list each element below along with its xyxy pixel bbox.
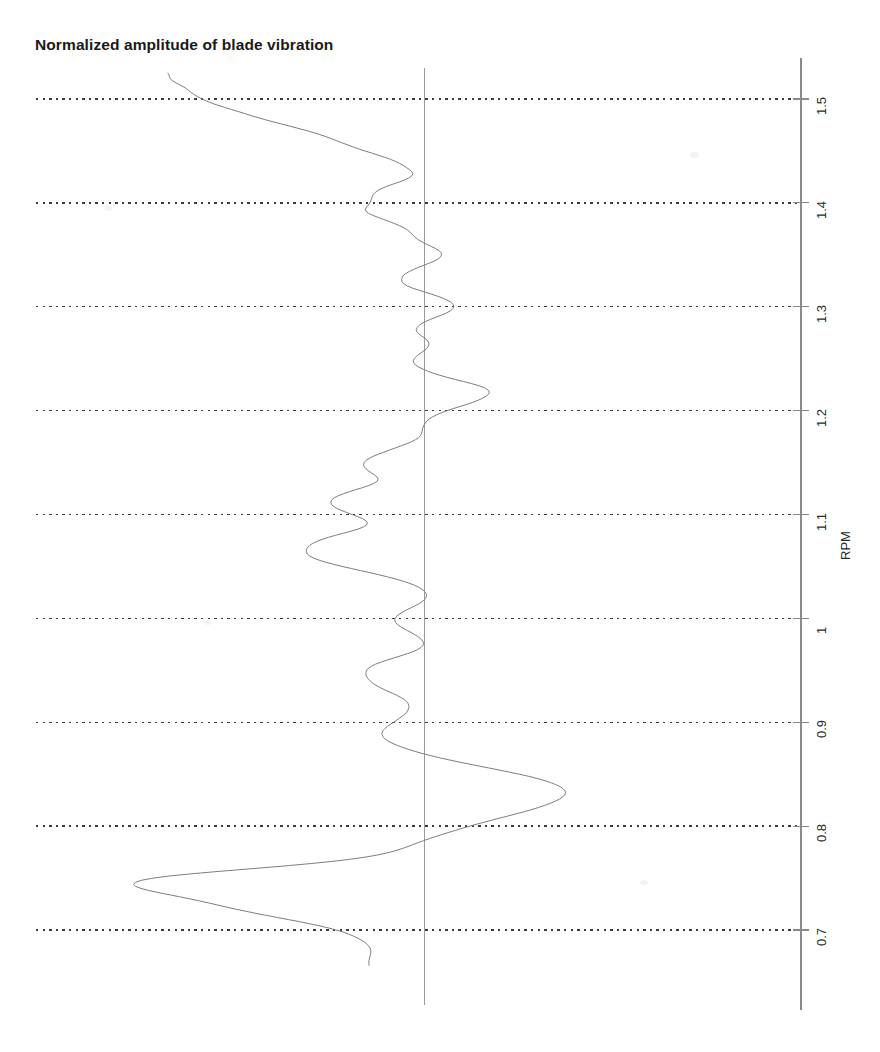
vibration-trace-line [134,73,566,965]
tick-label-1.1: 1.1 [814,512,829,530]
tick-label-1.2: 1.2 [814,409,829,427]
tick-label-0.9: 0.9 [814,720,829,738]
tick-label-1.5: 1.5 [814,97,829,115]
plot-area [0,0,880,1052]
gridline-group [36,99,801,930]
chart-figure: Normalized amplitude of blade vibration … [0,0,880,1052]
tick-label-1.4: 1.4 [814,201,829,219]
tick-label-0.8: 0.8 [814,824,829,842]
tick-label-0.7: 0.7 [814,928,829,946]
tick-label-1.3: 1.3 [814,305,829,323]
rpm-axis-title: RPM [838,531,853,560]
tick-label-1: 1 [814,627,829,634]
